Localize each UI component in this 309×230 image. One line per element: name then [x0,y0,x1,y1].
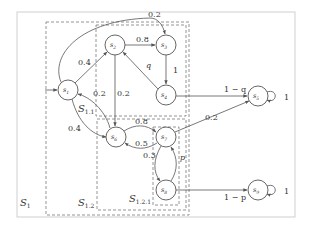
edge-label-s6-s1: 0.2 [93,89,106,98]
edge-label-s4-s2: q [146,61,151,70]
edge-label-s7-s8: 0.3 [143,151,156,160]
node-s4: s4 [156,85,176,105]
edge-label-s2-s3: 0.8 [136,35,149,44]
edge-label-s6-s7: 0.8 [135,117,148,126]
edge-label-s1-s3: 0.2 [148,10,161,19]
node-s6: s6 [106,127,126,147]
edge-label-s2-s6: 0.2 [117,89,130,98]
edge-label-s7-s5: 0.2 [205,113,218,122]
node-s1: s1 [58,80,78,100]
edge-label-s3-s4: 1 [173,66,178,75]
node-s9: s9 [248,180,268,200]
edge-label-s1-s2: 0.4 [78,58,91,67]
node-s3: s3 [156,35,176,55]
edge-label-s7-s6: 0.5 [135,139,148,148]
node-s8: s8 [156,180,176,200]
edge-label-s8-s7: p [180,153,185,162]
node-s5: s5 [248,86,268,106]
node-s2: s2 [105,35,125,55]
node-s7: s7 [156,127,176,147]
edge-label-s8-s9: 1 − p [224,193,246,202]
edge-label-s4-s5: 1 − q [224,85,246,94]
edge-label-s9-self: 1 [284,187,289,196]
markov-chain-diagram: S1 S1.1 S1.2 S1.2.1 [0,0,309,230]
edge-label-s5-self: 1 [284,93,289,102]
edge-label-s1-s6: 0.4 [68,124,81,133]
